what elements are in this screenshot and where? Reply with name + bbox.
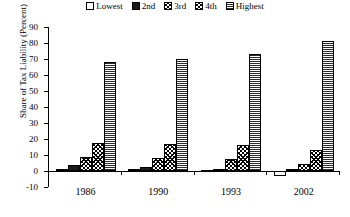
bar-highest-1986	[104, 62, 116, 171]
bar-lowest-1986	[56, 169, 68, 171]
y-tick-label: 0	[34, 167, 39, 176]
bar-4th-1986	[92, 143, 104, 171]
legend-swatch-highest	[226, 2, 234, 10]
bar-lowest-2002	[274, 171, 286, 176]
y-tick-label: 50	[29, 87, 38, 96]
y-tick: 20	[44, 139, 48, 140]
chart-legend: Lowest 2nd 3rd 4th Highest	[0, 1, 350, 11]
y-tick-label: 20	[29, 135, 38, 144]
bar-highest-2002	[322, 41, 334, 171]
y-tick: 90	[44, 27, 48, 28]
bar-2nd-2002	[286, 169, 298, 171]
bar-4th-1993	[237, 145, 249, 171]
y-tick-label: 60	[29, 71, 38, 80]
y-tick-label: 40	[29, 103, 38, 112]
legend-item-2nd: 2nd	[132, 1, 156, 11]
x-axis-label-1990: 1990	[122, 186, 195, 197]
x-axis-label-1993: 1993	[195, 186, 268, 197]
bar-3rd-1993	[225, 159, 237, 171]
bar-group: 1990	[122, 27, 195, 187]
legend-swatch-lowest	[86, 2, 94, 10]
y-tick-label: 10	[29, 151, 38, 160]
x-axis-label-1986: 1986	[49, 186, 122, 197]
bar-2nd-1990	[140, 167, 152, 171]
bar-chart: Lowest 2nd 3rd 4th Highest Share of Tax …	[0, 0, 350, 217]
bar-3rd-1986	[80, 157, 92, 171]
y-tick: 80	[44, 43, 48, 44]
y-tick: 30	[44, 123, 48, 124]
bars-container	[122, 27, 195, 187]
y-tick: -10	[44, 187, 48, 188]
bar-4th-2002	[310, 150, 322, 171]
bars-container	[49, 27, 122, 187]
legend-item-3rd: 3rd	[164, 1, 186, 11]
legend-label-lowest: Lowest	[96, 1, 123, 11]
bar-lowest-1990	[128, 169, 140, 171]
y-tick-label: -10	[26, 183, 38, 192]
y-tick: 50	[44, 91, 48, 92]
y-tick: 10	[44, 155, 48, 156]
legend-swatch-4th	[195, 2, 203, 10]
legend-item-highest: Highest	[226, 1, 264, 11]
y-tick: 60	[44, 75, 48, 76]
legend-swatch-3rd	[164, 2, 172, 10]
bar-highest-1990	[176, 59, 188, 171]
y-tick: 70	[44, 59, 48, 60]
bars-container	[195, 27, 268, 187]
legend-item-lowest: Lowest	[86, 1, 123, 11]
bar-3rd-2002	[298, 164, 310, 171]
y-axis-title: Share of Tax Liability (Percent)	[18, 0, 28, 136]
bar-groups: 1986199019932002	[49, 27, 340, 187]
y-tick-label: 90	[29, 23, 38, 32]
bar-2nd-1986	[68, 165, 80, 171]
y-tick-label: 80	[29, 39, 38, 48]
x-tick	[339, 171, 340, 175]
legend-label-4th: 4th	[205, 1, 217, 11]
bar-highest-1993	[249, 54, 261, 171]
bars-container	[267, 27, 340, 187]
x-axis-label-2002: 2002	[267, 186, 340, 197]
bar-group: 1993	[195, 27, 268, 187]
y-tick-label: 70	[29, 55, 38, 64]
plot-area: 9080706050403020100-10 1986199019932002	[48, 27, 340, 187]
legend-item-4th: 4th	[195, 1, 217, 11]
legend-swatch-2nd	[132, 2, 140, 10]
legend-label-2nd: 2nd	[142, 1, 156, 11]
y-tick: 40	[44, 107, 48, 108]
bar-group: 2002	[267, 27, 340, 187]
legend-label-highest: Highest	[236, 1, 264, 11]
bar-3rd-1990	[152, 158, 164, 171]
bar-group: 1986	[49, 27, 122, 187]
bar-lowest-1993	[201, 170, 213, 172]
bar-2nd-1993	[213, 169, 225, 171]
y-tick-label: 30	[29, 119, 38, 128]
bar-4th-1990	[164, 144, 176, 171]
legend-label-3rd: 3rd	[174, 1, 186, 11]
